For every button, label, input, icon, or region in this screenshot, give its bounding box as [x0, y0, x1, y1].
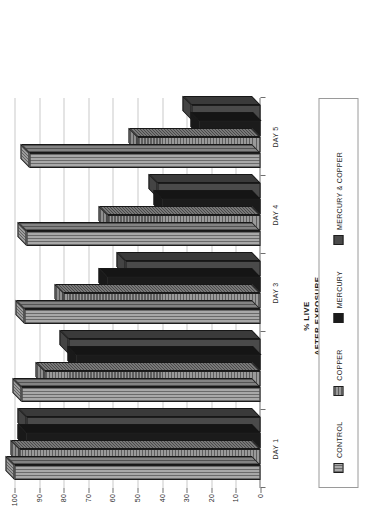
- category-label: DAY 4: [271, 204, 278, 225]
- legend-label: MERCURY: [335, 271, 342, 308]
- value-tick-mark: [162, 488, 163, 493]
- bar-side-face: [153, 190, 260, 199]
- bar-side-face: [116, 252, 260, 261]
- chart-figure: 1009080706050403020100 DAY 1DAY 3DAY 4DA…: [0, 0, 373, 522]
- bar-side-face: [15, 300, 260, 309]
- bar-side-face: [99, 206, 260, 215]
- value-tick-mark: [39, 488, 40, 493]
- category-label: DAY 1: [271, 438, 278, 459]
- bar-side-face: [35, 362, 260, 371]
- category-tick-mark: [260, 331, 265, 332]
- bar-side-face: [20, 144, 260, 153]
- bar-side-face: [128, 128, 260, 137]
- bar-side-face: [10, 440, 260, 449]
- legend-item: CONTROL: [333, 422, 343, 473]
- bar-side-face: [55, 284, 260, 293]
- bar: [21, 387, 260, 402]
- category-tick-mark: [260, 487, 265, 488]
- legend-label: MERCURY & COPPER: [335, 152, 342, 230]
- bar-side-face: [148, 174, 260, 183]
- value-tick-label: 50: [134, 494, 141, 502]
- value-tick-mark: [235, 488, 236, 493]
- category-tick-mark: [260, 175, 265, 176]
- value-tick-label: 100: [11, 494, 18, 506]
- legend-item: MERCURY & COPPER: [333, 152, 343, 245]
- bar-side-face: [182, 96, 260, 105]
- bar-front-face: [29, 153, 260, 168]
- legend-label: CONTROL: [335, 422, 342, 458]
- value-axis-title-line1: % LIVE: [300, 106, 311, 522]
- value-tick-mark: [260, 488, 261, 493]
- value-tick-mark: [112, 488, 113, 493]
- value-tick-label: 80: [60, 494, 67, 502]
- value-tick-label: 10: [232, 494, 239, 502]
- value-tick-mark: [63, 488, 64, 493]
- category-label: DAY 3: [271, 282, 278, 303]
- category-label: DAY 5: [271, 126, 278, 147]
- value-tick-mark: [137, 488, 138, 493]
- gridline: [14, 98, 15, 488]
- legend-swatch-icon: [333, 463, 343, 473]
- bar: [29, 153, 260, 168]
- chart-legend: CONTROLCOPPERMERCURYMERCURY & COPPER: [318, 98, 358, 488]
- legend-swatch-icon: [333, 235, 343, 245]
- value-tick-label: 60: [109, 494, 116, 502]
- value-tick-mark: [88, 488, 89, 493]
- bar-side-face: [5, 456, 260, 465]
- rotated-figure-wrapper: 1009080706050403020100 DAY 1DAY 3DAY 4DA…: [0, 0, 373, 522]
- legend-label: COPPER: [335, 349, 342, 380]
- value-tick-mark: [186, 488, 187, 493]
- legend-swatch-icon: [333, 386, 343, 396]
- bar-side-face: [99, 268, 260, 277]
- bar-side-face: [190, 112, 260, 121]
- plot-area: 1009080706050403020100 DAY 1DAY 3DAY 4DA…: [14, 98, 260, 488]
- bar-front-face: [26, 231, 260, 246]
- category-tick-mark: [260, 97, 265, 98]
- bar: [26, 231, 260, 246]
- bar: [14, 465, 260, 480]
- bar-side-face: [13, 378, 260, 387]
- category-tick-mark: [260, 253, 265, 254]
- bar-side-face: [59, 330, 260, 339]
- value-tick-label: 70: [84, 494, 91, 502]
- bar-side-face: [18, 222, 260, 231]
- value-tick-mark: [211, 488, 212, 493]
- legend-swatch-icon: [333, 313, 343, 323]
- value-tick-label: 30: [183, 494, 190, 502]
- bar-side-face: [18, 408, 260, 417]
- bar: [24, 309, 260, 324]
- value-tick-label: 0: [257, 494, 264, 498]
- bar-front-face: [21, 387, 260, 402]
- bar-side-face: [67, 346, 260, 355]
- value-tick-mark: [14, 488, 15, 493]
- legend-item: MERCURY: [333, 271, 343, 323]
- value-tick-label: 40: [158, 494, 165, 502]
- category-tick-mark: [260, 409, 265, 410]
- value-tick-label: 90: [35, 494, 42, 502]
- legend-item: COPPER: [333, 349, 343, 395]
- value-tick-label: 20: [207, 494, 214, 502]
- bar-side-face: [18, 424, 260, 433]
- bar-front-face: [14, 465, 260, 480]
- bar-front-face: [24, 309, 260, 324]
